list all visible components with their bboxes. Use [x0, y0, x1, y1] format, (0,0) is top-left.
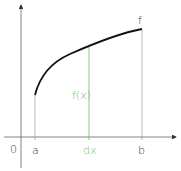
- label-fx: f(x): [72, 89, 91, 102]
- label-b: b: [138, 144, 145, 157]
- label-dx: dx: [83, 144, 97, 157]
- label-origin: 0: [10, 143, 17, 156]
- integral-diagram: f f(x) 0 a dx b: [0, 0, 181, 171]
- label-a: a: [32, 144, 39, 157]
- label-f: f: [138, 14, 142, 27]
- curve-f: [35, 29, 142, 95]
